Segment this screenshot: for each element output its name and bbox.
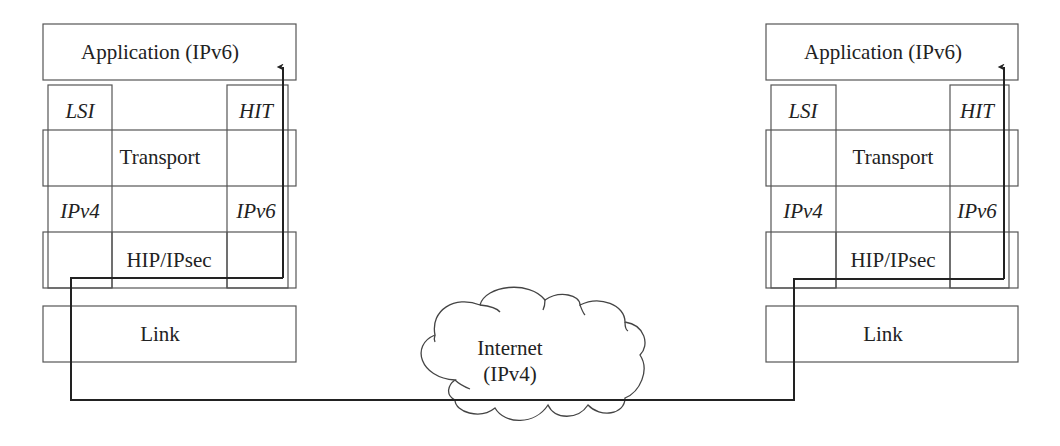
right-link-label: Link	[863, 322, 903, 346]
cloud-label-ipv4: (IPv4)	[483, 362, 537, 386]
right-lsi-label: LSI	[787, 99, 818, 123]
right-protocol-stack: Application (IPv6) LSI HIT Transport IPv…	[766, 24, 1018, 362]
left-protocol-stack: Application (IPv6) LSI HIT Transport IPv…	[43, 24, 296, 362]
right-ipv4-label: IPv4	[782, 199, 823, 223]
left-hip-ipsec-label: HIP/IPsec	[126, 248, 211, 272]
left-transport-label: Transport	[120, 145, 201, 169]
right-application-label: Application (IPv6)	[804, 40, 962, 64]
right-hip-ipsec-label: HIP/IPsec	[850, 248, 935, 272]
left-lsi-label: LSI	[64, 99, 95, 123]
left-application-label: Application (IPv6)	[81, 40, 239, 64]
left-ipv6-label: IPv6	[235, 199, 276, 223]
left-ipv4-label: IPv4	[59, 199, 100, 223]
right-transport-label: Transport	[853, 145, 934, 169]
hip-protocol-diagram: Application (IPv6) LSI HIT Transport IPv…	[0, 0, 1060, 446]
left-hit-label: HIT	[238, 99, 274, 123]
left-link-label: Link	[140, 322, 180, 346]
right-ipv6-label: IPv6	[956, 199, 997, 223]
cloud-label-internet: Internet	[477, 336, 542, 360]
right-hit-label: HIT	[959, 99, 995, 123]
